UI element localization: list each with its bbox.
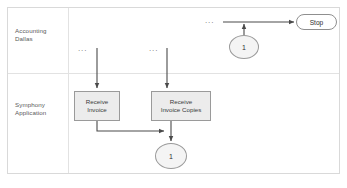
ellipsis-invoice-copies-inflow: ... xyxy=(149,45,158,53)
ellipsis-invoice-inflow: ... xyxy=(78,45,87,53)
connector-circle-bottom[interactable]: 1 xyxy=(155,143,187,169)
lane-label-symphony-application: Symphony Application xyxy=(15,101,46,117)
ellipsis-stop-inflow: ... xyxy=(205,17,214,25)
task-receive-invoice-copies[interactable]: Receive Invoice Copies xyxy=(151,91,211,121)
swimlane-diagram-canvas: Accounting Dallas Symphony Application .… xyxy=(0,0,347,188)
lane-label-accounting-dallas: Accounting Dallas xyxy=(15,27,47,43)
connector-circle-top[interactable]: 1 xyxy=(229,35,259,59)
flow-invoice-to-copies-merge xyxy=(97,121,164,131)
task-receive-invoice[interactable]: Receive Invoice xyxy=(74,91,120,121)
terminator-stop[interactable]: Stop xyxy=(296,14,337,30)
